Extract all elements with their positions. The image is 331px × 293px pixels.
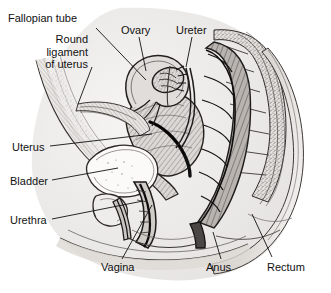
label-round-ligament-line1: Round (0, 33, 88, 46)
label-ovary: Ovary (121, 24, 150, 37)
label-fallopian-tube: Fallopian tube (8, 12, 77, 25)
label-round-ligament-line2: ligament (0, 46, 88, 59)
label-anus: Anus (206, 261, 231, 274)
label-bladder: Bladder (10, 175, 48, 188)
label-rectum: Rectum (267, 261, 305, 274)
label-uterus: Uterus (12, 141, 44, 154)
label-ureter: Ureter (176, 24, 207, 37)
label-round-ligament-line3: of uterus (0, 58, 88, 71)
label-urethra: Urethra (10, 214, 47, 227)
label-round-ligament-of-uterus: Round ligament of uterus (0, 33, 88, 71)
label-vagina: Vagina (101, 261, 134, 274)
